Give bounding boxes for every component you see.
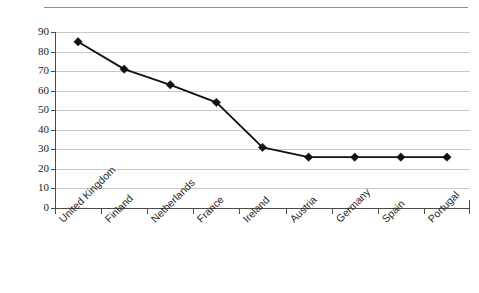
y-tick-label: 10 — [7, 182, 49, 193]
y-tick-label: 50 — [7, 104, 49, 115]
y-tick-label: 60 — [7, 85, 49, 96]
x-tick-mark — [193, 208, 194, 214]
y-tick-label: 90 — [7, 26, 49, 37]
header-divider — [44, 7, 468, 8]
y-tick-label: 70 — [7, 65, 49, 76]
plot-area — [55, 32, 470, 208]
x-tick-mark — [286, 208, 287, 214]
x-tick-mark — [147, 208, 148, 214]
chart-title-remnant — [44, 0, 468, 6]
y-tick-label: 40 — [7, 124, 49, 135]
data-point-markers — [74, 38, 451, 162]
x-tick-mark — [378, 208, 379, 214]
data-point-marker — [351, 153, 359, 161]
y-tick-label: 30 — [7, 143, 49, 154]
data-point-marker — [443, 153, 451, 161]
data-point-marker — [397, 153, 405, 161]
data-point-marker — [166, 81, 174, 89]
y-tick-label: 20 — [7, 163, 49, 174]
line-chart: 0102030405060708090 United KingdomFinlan… — [0, 0, 479, 293]
series-line — [78, 42, 447, 157]
data-point-marker — [120, 65, 128, 73]
y-tick-label: 80 — [7, 46, 49, 57]
x-tick-mark — [55, 208, 56, 214]
data-point-marker — [74, 38, 82, 46]
data-series-svg — [55, 32, 470, 208]
data-point-marker — [304, 153, 312, 161]
x-tick-mark — [469, 208, 470, 214]
y-tick-label: 0 — [7, 202, 49, 213]
x-tick-mark — [332, 208, 333, 214]
x-tick-mark — [239, 208, 240, 214]
x-tick-mark — [424, 208, 425, 214]
x-tick-mark — [101, 208, 102, 214]
